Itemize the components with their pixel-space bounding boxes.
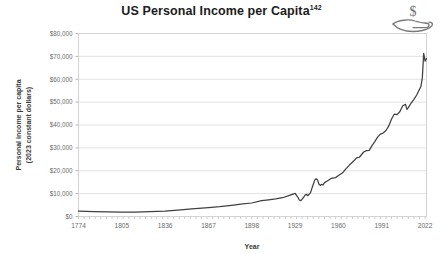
y-axis-tick-label: $60,000 bbox=[50, 76, 73, 83]
x-axis-tick-label: 1836 bbox=[158, 222, 173, 229]
y-axis-tick-label: $10,000 bbox=[50, 190, 73, 197]
y-axis-tick-label: $80,000 bbox=[50, 30, 73, 37]
x-axis-tick-label: 1929 bbox=[288, 222, 303, 229]
x-axis-title: Year bbox=[245, 243, 260, 250]
x-axis-tick-label: 1898 bbox=[244, 222, 259, 229]
x-axis-tick-label: 1805 bbox=[114, 222, 129, 229]
x-axis-tick-label: 2022 bbox=[418, 222, 433, 229]
y-axis-title: Personal income per capita (2023 constan… bbox=[15, 79, 33, 170]
gridlines-group bbox=[76, 34, 427, 217]
y-axis-title-line2: (2023 constant dollars) bbox=[25, 87, 33, 163]
x-axis-tick-label: 1774 bbox=[71, 222, 86, 229]
y-axis-tick-label: $20,000 bbox=[50, 167, 73, 174]
x-axis-tick-labels: 177418051836186718981929196019912022 bbox=[71, 222, 433, 229]
y-axis-tick-label: $30,000 bbox=[50, 144, 73, 151]
y-axis-tick-labels: $0$10,000$20,000$30,000$40,000$50,000$60… bbox=[50, 30, 73, 220]
y-axis-tick-label: $70,000 bbox=[50, 53, 73, 60]
y-axis-tick-label: $0 bbox=[65, 213, 73, 220]
x-axis-tick-label: 1991 bbox=[374, 222, 389, 229]
line-chart: $0$10,000$20,000$30,000$40,000$50,000$60… bbox=[0, 0, 443, 254]
y-axis-tick-label: $50,000 bbox=[50, 98, 73, 105]
y-axis-tick-label: $40,000 bbox=[50, 121, 73, 128]
chart-figure: US Personal Income per Capita142 $ $0$10… bbox=[0, 0, 443, 254]
x-axis-tick-label: 1960 bbox=[331, 222, 346, 229]
y-axis-title-line1: Personal income per capita bbox=[15, 79, 23, 170]
x-axis-tick-label: 1867 bbox=[201, 222, 216, 229]
income-series-line bbox=[79, 53, 427, 212]
